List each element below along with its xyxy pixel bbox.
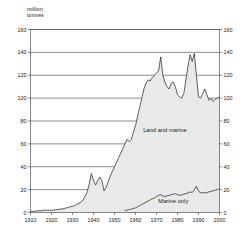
y-tick-label-right: 100 — [224, 95, 233, 101]
y-tick-label-left: 100 — [18, 95, 27, 101]
x-tick-label: 1920 — [46, 217, 58, 223]
y-tick-label-right: 140 — [224, 49, 233, 55]
chart-plot: 020406080100120140160 020406080100120140… — [0, 0, 243, 239]
series-annotation-0: Land and marine — [143, 127, 187, 133]
x-tick-label: 1960 — [130, 217, 142, 223]
y-tick-label-left: 160 — [18, 27, 27, 33]
chart-container: milliontonnes 020406080100120140160 0204… — [0, 0, 243, 239]
y-tick-label-left: 120 — [18, 72, 27, 78]
series-annotation-1: Marine only — [158, 198, 188, 204]
y-tick-label-right: 40 — [224, 164, 230, 170]
y-tick-label-right: 160 — [224, 27, 233, 33]
x-tick-label: 1990 — [193, 217, 205, 223]
y-tick-label-right: 60 — [224, 141, 230, 147]
x-tick-label: 1910 — [25, 217, 37, 223]
y-tick-label-left: 140 — [18, 49, 27, 55]
y-tick-label-left: 40 — [21, 164, 27, 170]
series-areas — [31, 54, 220, 213]
y-axis-left-ticks: 020406080100120140160 — [18, 27, 31, 216]
y-tick-label-right: 0 — [224, 210, 227, 216]
x-tick-label: 1940 — [88, 217, 100, 223]
y-tick-label-left: 0 — [24, 210, 27, 216]
x-tick-label: 1980 — [172, 217, 184, 223]
y-tick-label-left: 80 — [21, 118, 27, 124]
y-tick-label-right: 120 — [224, 72, 233, 78]
y-tick-label-right: 80 — [224, 118, 230, 124]
area-series-0 — [31, 54, 220, 213]
y-tick-label-right: 20 — [224, 187, 230, 193]
y-tick-label-left: 60 — [21, 141, 27, 147]
y-tick-label-left: 20 — [21, 187, 27, 193]
x-tick-label: 2000 — [214, 217, 226, 223]
x-tick-label: 1970 — [151, 217, 163, 223]
x-tick-label: 1950 — [109, 217, 121, 223]
y-axis-right-ticks: 020406080100120140160 — [220, 27, 233, 216]
x-tick-label: 1930 — [67, 217, 79, 223]
x-axis-ticks: 1910192019301940195019601970198019902000 — [25, 213, 226, 223]
